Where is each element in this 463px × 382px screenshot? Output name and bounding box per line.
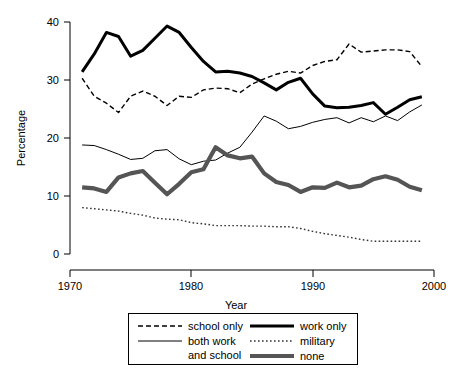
legend-label-none[interactable]: none xyxy=(300,350,324,362)
legend-label-military[interactable]: military xyxy=(300,335,335,347)
y-tick-label-0: 0 xyxy=(53,248,59,260)
x-axis-title: Year xyxy=(225,299,248,311)
chart-figure: 40 30 20 10 0 1970 1980 1990 2000 Year P… xyxy=(0,0,463,382)
y-tick-label-40: 40 xyxy=(47,16,59,28)
x-tick-label-2000: 2000 xyxy=(422,280,446,292)
line-chart-svg: 40 30 20 10 0 1970 1980 1990 2000 Year P… xyxy=(0,0,463,382)
y-axis-title: Percentage xyxy=(15,110,27,166)
chart-legend: school only both work and school work on… xyxy=(129,314,358,365)
y-tick-label-20: 20 xyxy=(47,132,59,144)
series-line-military xyxy=(82,208,422,242)
y-tick-label-30: 30 xyxy=(47,74,59,86)
series-line-none xyxy=(82,147,422,194)
legend-label-work-only[interactable]: work only xyxy=(299,320,347,332)
x-tick-label-1980: 1980 xyxy=(179,280,203,292)
x-tick-label-1990: 1990 xyxy=(301,280,325,292)
x-axis-ticks xyxy=(70,270,434,277)
series-group xyxy=(82,26,422,241)
series-line-work-only xyxy=(82,26,422,114)
y-axis-ticks xyxy=(64,22,70,254)
legend-label-school-only[interactable]: school only xyxy=(188,320,244,332)
legend-label-both-work[interactable]: both work xyxy=(188,335,236,347)
y-tick-label-10: 10 xyxy=(47,190,59,202)
legend-label-and-school[interactable]: and school xyxy=(188,349,241,361)
x-tick-label-1970: 1970 xyxy=(58,280,82,292)
